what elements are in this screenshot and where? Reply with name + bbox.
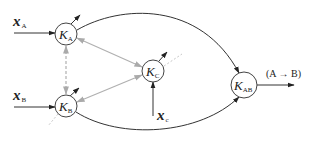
out-arrow-kc — [159, 52, 167, 61]
input-label-xa: xA — [12, 13, 27, 30]
edge-ka-kc — [77, 38, 142, 67]
output-label: (A → B) — [266, 68, 301, 80]
out-arrow-kb — [70, 88, 79, 96]
input-label-xc: xc — [156, 107, 169, 124]
edge-kb-kc — [77, 75, 142, 102]
diagram-canvas: KA KB KC KAB xA xB xc (A → B) — [0, 0, 314, 142]
edge-kc-ext — [164, 54, 182, 66]
out-arrow-ka — [71, 15, 80, 24]
input-label-xb: xB — [12, 87, 27, 104]
edge-kb-ext — [48, 114, 58, 126]
